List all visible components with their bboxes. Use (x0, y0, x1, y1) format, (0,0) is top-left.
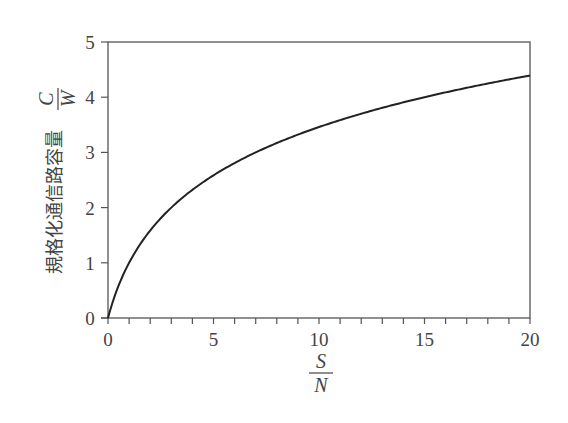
plot-frame (101, 42, 530, 318)
y-label-denominator: W (57, 88, 79, 107)
y-axis-ticks: 012345 (85, 32, 108, 329)
y-tick-label: 5 (85, 32, 95, 53)
x-tick-label: 5 (209, 329, 219, 350)
x-tick-label: 15 (415, 329, 434, 350)
y-tick-label: 4 (85, 87, 95, 108)
x-tick-label: 20 (521, 329, 540, 350)
x-axis-label: S N (309, 350, 333, 396)
y-label-numerator: C (35, 92, 57, 106)
chart: 05101520 012345 S N 規格化通信路容量 C W (0, 0, 568, 423)
x-tick-label: 10 (310, 329, 329, 350)
series-line-capacity (108, 76, 530, 318)
series-group (108, 76, 530, 318)
y-label-text: 規格化通信路容量 (44, 130, 65, 274)
y-tick-label: 3 (85, 142, 95, 163)
x-axis-ticks: 05101520 (103, 318, 539, 350)
y-tick-label: 0 (85, 308, 95, 329)
y-tick-label: 1 (85, 253, 95, 274)
x-label-numerator: S (316, 350, 326, 372)
x-tick-label: 0 (103, 329, 113, 350)
y-tick-label: 2 (85, 198, 95, 219)
plot-border (108, 42, 530, 318)
y-axis-label: 規格化通信路容量 C W (35, 88, 79, 274)
x-label-denominator: N (313, 374, 329, 396)
